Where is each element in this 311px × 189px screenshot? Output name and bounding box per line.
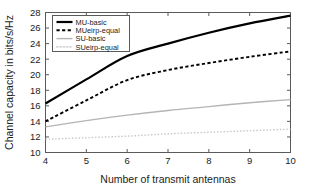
y-tick-label: 12 <box>30 131 41 142</box>
y-tick-label: 16 <box>30 100 41 111</box>
x-tick-label: 5 <box>84 155 89 166</box>
y-tick-label: 26 <box>30 22 41 33</box>
x-tick-label: 4 <box>43 155 48 166</box>
y-tick-label: 28 <box>30 7 41 18</box>
legend-label-sueirp-equal: SUeirp-equal <box>76 43 119 52</box>
x-axis-title: Number of transmit antennas <box>100 173 235 185</box>
x-tick-label: 10 <box>285 155 296 166</box>
y-tick-label: 24 <box>30 38 41 49</box>
y-tick-label: 14 <box>30 116 41 127</box>
x-tick-label: 7 <box>165 155 170 166</box>
chart-canvas: 1012141618202224262845678910Number of tr… <box>0 0 311 189</box>
y-tick-label: 22 <box>30 54 41 65</box>
y-tick-label: 18 <box>30 85 41 96</box>
series-line-su-basic <box>46 100 291 127</box>
y-tick-label: 20 <box>30 69 41 80</box>
chart-figure: 1012141618202224262845678910Number of tr… <box>0 0 311 189</box>
series-line-sueirp-equal <box>46 129 291 139</box>
x-tick-label: 6 <box>125 155 130 166</box>
x-tick-label: 8 <box>206 155 211 166</box>
x-tick-label: 9 <box>247 155 252 166</box>
y-tick-label: 10 <box>30 147 41 158</box>
y-axis-title: Channel capacity in bits/s/Hz <box>3 15 15 150</box>
